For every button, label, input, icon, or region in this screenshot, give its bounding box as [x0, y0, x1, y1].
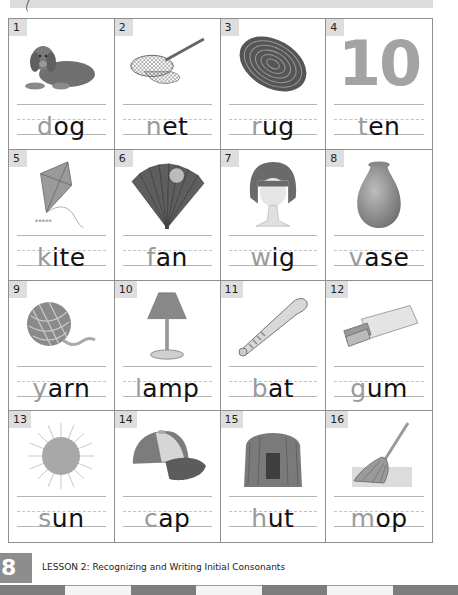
word-kite: kite: [9, 245, 114, 270]
page-footer: 8 LESSON 2: Recognizing and Writing Init…: [0, 553, 458, 583]
word-ending: un: [52, 504, 85, 533]
word-sun: sun: [9, 506, 114, 531]
word-card-hut: 15 hut: [221, 411, 327, 542]
word-ending: og: [53, 112, 85, 141]
traced-initial-letter: r: [251, 112, 262, 141]
word-ending: ite: [52, 243, 86, 272]
word-yarn: yarn: [9, 376, 114, 401]
traced-initial-letter: d: [37, 112, 53, 141]
fan-icon: [127, 160, 208, 230]
lamp-icon: [127, 291, 208, 361]
traced-initial-letter: w: [250, 243, 271, 272]
word-gum: gum: [326, 376, 432, 401]
word-ending: ase: [364, 243, 409, 272]
swoosh-icon: [23, 0, 56, 12]
svg-text:⁎⁎⁎⁎⁎: ⁎⁎⁎⁎⁎: [35, 216, 53, 224]
cap-icon: [127, 421, 208, 491]
word-card-net: 2 net: [115, 19, 221, 150]
word-dog: dog: [9, 114, 114, 139]
traced-initial-letter: h: [251, 504, 267, 533]
word-rug: rug: [221, 114, 326, 139]
word-card-grid: 1 dog 2: [8, 18, 433, 543]
word-card-ten: 4 10 ten: [326, 19, 432, 150]
traced-initial-letter: g: [350, 374, 366, 403]
word-card-bat: 11 bat: [221, 281, 327, 412]
wig-icon: [233, 160, 314, 230]
word-ten: ten: [326, 114, 432, 139]
ten-numeral: 10: [338, 33, 420, 95]
traced-initial-letter: c: [144, 504, 158, 533]
word-bat: bat: [221, 376, 326, 401]
word-ending: amp: [142, 374, 199, 403]
word-ending: op: [375, 504, 407, 533]
word-ending: um: [367, 374, 408, 403]
sun-icon: [21, 421, 102, 491]
word-card-kite: 5 ⁎⁎⁎⁎⁎ kite: [9, 150, 115, 281]
traced-initial-letter: n: [146, 112, 162, 141]
word-card-sun: 13 sun: [9, 411, 115, 542]
traced-initial-letter: s: [38, 504, 52, 533]
word-card-lamp: 10 lamp: [115, 281, 221, 412]
top-banner: [10, 0, 433, 8]
ten-icon: 10: [338, 29, 420, 99]
word-fan: fan: [115, 245, 220, 270]
word-card-yarn: 9 yarn: [9, 281, 115, 412]
word-ending: at: [268, 374, 294, 403]
dog-icon: [21, 29, 102, 99]
net-icon: [127, 29, 208, 99]
yarn-icon: [21, 291, 102, 361]
word-net: net: [115, 114, 220, 139]
traced-initial-letter: t: [358, 112, 368, 141]
page-number: 8: [0, 553, 32, 583]
word-ending: ap: [158, 504, 190, 533]
word-card-vase: 8 vase: [326, 150, 432, 281]
word-card-cap: 14 cap: [115, 411, 221, 542]
kite-icon: ⁎⁎⁎⁎⁎: [21, 160, 102, 230]
traced-initial-letter: y: [32, 374, 47, 403]
word-card-wig: 7 wig: [221, 150, 327, 281]
word-ending: ug: [262, 112, 295, 141]
word-ending: an: [156, 243, 188, 272]
traced-initial-letter: b: [252, 374, 268, 403]
bat-icon: [233, 291, 314, 361]
traced-initial-letter: k: [37, 243, 52, 272]
word-mop: mop: [326, 506, 432, 531]
rug-icon: [233, 29, 314, 99]
word-wig: wig: [221, 245, 326, 270]
word-card-fan: 6 fan: [115, 150, 221, 281]
word-hut: hut: [221, 506, 326, 531]
word-ending: ig: [271, 243, 295, 272]
word-ending: ut: [268, 504, 295, 533]
gum-icon: [338, 291, 420, 361]
word-card-mop: 16 mop: [326, 411, 432, 542]
word-cap: cap: [115, 506, 220, 531]
hut-icon: [233, 421, 314, 491]
word-lamp: lamp: [115, 376, 220, 401]
traced-initial-letter: v: [349, 243, 364, 272]
word-card-gum: 12 gum: [326, 281, 432, 412]
word-card-dog: 1 dog: [9, 19, 115, 150]
word-ending: et: [162, 112, 188, 141]
vase-icon: [338, 160, 420, 230]
traced-initial-letter: f: [146, 243, 155, 272]
word-vase: vase: [326, 245, 432, 270]
word-ending: en: [368, 112, 400, 141]
lesson-caption: LESSON 2: Recognizing and Writing Initia…: [42, 562, 285, 572]
word-card-rug: 3 rug: [221, 19, 327, 150]
mop-icon: [338, 421, 420, 491]
word-ending: arn: [48, 374, 91, 403]
bottom-stripe: [0, 585, 458, 595]
traced-initial-letter: m: [351, 504, 376, 533]
